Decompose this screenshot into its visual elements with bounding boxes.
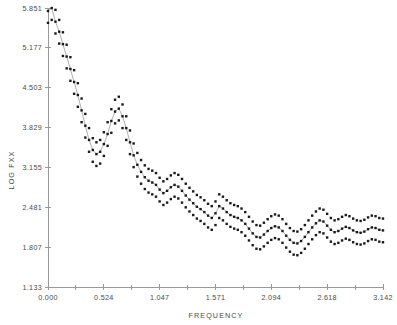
data-point <box>58 42 60 44</box>
x-tick-label: 0.000 <box>38 293 58 302</box>
data-point <box>170 186 172 188</box>
data-point <box>114 99 116 101</box>
data-point <box>166 190 168 192</box>
x-tick-label: 1.571 <box>206 293 226 302</box>
data-point <box>263 233 265 235</box>
data-point <box>367 240 369 242</box>
data-point <box>51 7 53 9</box>
y-tick-label: 5.851 <box>23 4 43 13</box>
data-point <box>352 217 354 219</box>
data-point <box>47 10 49 12</box>
data-point <box>285 235 287 237</box>
data-point <box>252 232 254 234</box>
data-point <box>300 252 302 254</box>
data-point <box>207 226 209 228</box>
data-point <box>166 201 168 203</box>
data-point <box>356 243 358 245</box>
data-point <box>88 139 90 141</box>
data-point <box>158 200 160 202</box>
data-point <box>140 171 142 173</box>
data-point <box>345 237 347 239</box>
data-point <box>266 242 268 244</box>
data-point <box>211 217 213 219</box>
data-point <box>352 241 354 243</box>
data-point <box>359 232 361 234</box>
data-point <box>292 242 294 244</box>
data-point <box>121 103 123 105</box>
data-point <box>296 254 298 256</box>
data-point <box>69 80 71 82</box>
data-point <box>304 224 306 226</box>
data-point <box>192 214 194 216</box>
data-point <box>106 133 108 135</box>
data-point <box>62 31 64 33</box>
data-point <box>341 239 343 241</box>
data-point <box>300 240 302 242</box>
series-upper-markers <box>54 9 384 233</box>
data-point <box>110 108 112 110</box>
data-point <box>196 194 198 196</box>
data-point <box>333 243 335 245</box>
data-point <box>162 204 164 206</box>
data-point <box>244 223 246 225</box>
data-point <box>356 231 358 233</box>
data-point <box>192 202 194 204</box>
data-point <box>118 107 120 109</box>
data-point <box>173 196 175 198</box>
data-point <box>307 231 309 233</box>
data-point <box>192 190 194 192</box>
data-point <box>285 246 287 248</box>
data-point <box>363 242 365 244</box>
data-point <box>121 127 123 129</box>
data-point <box>226 211 228 213</box>
data-point <box>333 219 335 221</box>
data-point <box>84 136 86 138</box>
data-point <box>300 228 302 230</box>
x-tick-label: 2.094 <box>262 293 282 302</box>
data-point <box>233 227 235 229</box>
data-point <box>352 229 354 231</box>
data-point <box>378 240 380 242</box>
data-point <box>292 253 294 255</box>
data-point <box>263 222 265 224</box>
x-tick-label: 1.047 <box>150 293 170 302</box>
data-point <box>374 227 376 229</box>
data-point <box>181 178 183 180</box>
y-tick-label: 2.481 <box>23 203 43 212</box>
data-point <box>84 125 86 127</box>
data-point <box>77 106 79 108</box>
data-point <box>170 174 172 176</box>
data-point <box>140 182 142 184</box>
data-point <box>129 153 131 155</box>
data-point <box>289 227 291 229</box>
data-point <box>378 217 380 219</box>
data-point <box>330 217 332 219</box>
data-point <box>274 237 276 239</box>
data-point <box>199 196 201 198</box>
data-point <box>248 239 250 241</box>
data-point <box>311 226 313 228</box>
data-point <box>214 212 216 214</box>
data-point <box>248 216 250 218</box>
data-point <box>378 229 380 231</box>
data-point <box>382 241 384 243</box>
data-point <box>255 236 257 238</box>
data-point <box>103 155 105 157</box>
data-point <box>188 198 190 200</box>
data-point <box>374 239 376 241</box>
data-point <box>233 204 235 206</box>
data-point <box>173 184 175 186</box>
data-point <box>151 169 153 171</box>
data-point <box>348 227 350 229</box>
data-point <box>177 174 179 176</box>
data-point <box>363 230 365 232</box>
data-point <box>58 19 60 21</box>
data-point <box>155 184 157 186</box>
data-point <box>47 22 49 24</box>
data-point <box>129 129 131 131</box>
data-point <box>95 141 97 143</box>
data-point <box>181 201 183 203</box>
data-point <box>214 200 216 202</box>
data-point <box>226 199 228 201</box>
data-point <box>304 236 306 238</box>
